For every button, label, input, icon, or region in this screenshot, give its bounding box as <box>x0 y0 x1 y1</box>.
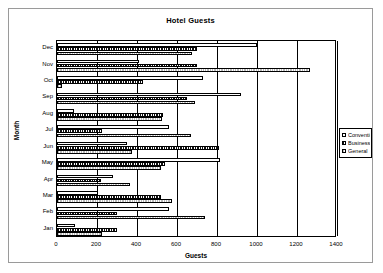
bar-general <box>57 117 162 121</box>
bar-general <box>57 84 62 88</box>
plot-area <box>56 40 336 237</box>
chart-title: Hotel Guests <box>9 16 372 25</box>
y-tick-label: Feb <box>43 208 53 214</box>
x-tick-label: 400 <box>131 241 141 247</box>
bar-group <box>57 41 335 57</box>
bar-group <box>57 90 335 106</box>
y-tick-label: Apr <box>44 176 53 182</box>
bar-business <box>57 228 117 232</box>
bar-business <box>57 80 143 84</box>
bar-general <box>57 52 192 56</box>
y-tick-label: Mar <box>43 192 53 198</box>
bar-convention <box>57 207 169 211</box>
legend-item: Convention <box>342 131 370 139</box>
y-tick-label: May <box>42 159 53 165</box>
y-tick-label: Oct <box>44 77 53 83</box>
legend-label: General <box>348 148 368 154</box>
x-tick-label: 800 <box>211 241 221 247</box>
x-tick-label: 1200 <box>289 241 302 247</box>
x-tick-label: 1400 <box>329 241 342 247</box>
y-tick-label: Aug <box>42 110 53 116</box>
bar-general <box>57 68 310 72</box>
bar-business <box>57 129 102 133</box>
legend-swatch-convention <box>342 133 346 137</box>
bar-business <box>57 195 161 199</box>
bar-group <box>57 107 335 123</box>
legend-swatch-business <box>342 141 346 145</box>
bar-convention <box>57 76 203 80</box>
bar-general <box>57 134 191 138</box>
bar-convention <box>57 224 75 228</box>
legend-item: Business <box>342 139 370 147</box>
legend-label: Convention <box>348 132 370 138</box>
bar-convention <box>57 125 169 129</box>
y-tick-label: Dec <box>42 44 53 50</box>
bar-group <box>57 205 335 221</box>
bar-convention <box>57 109 74 113</box>
legend-item: General <box>342 147 370 155</box>
x-tick-label: 0 <box>54 241 57 247</box>
bar-group <box>57 222 335 238</box>
bar-general <box>57 232 102 236</box>
bar-group <box>57 140 335 156</box>
bar-group <box>57 172 335 188</box>
bar-group <box>57 156 335 172</box>
bar-business <box>57 97 187 101</box>
bar-general <box>57 166 161 170</box>
bar-group <box>57 123 335 139</box>
bar-convention <box>57 175 113 179</box>
chart-frame: Hotel Guests Month JanFebMarAprMayJunJul… <box>8 8 373 263</box>
bar-general <box>57 150 132 154</box>
y-tick-label: Jul <box>45 126 53 132</box>
x-tick-label: 600 <box>171 241 181 247</box>
bar-convention <box>57 158 220 162</box>
x-tick-label: 1000 <box>249 241 262 247</box>
bar-general <box>57 101 195 105</box>
bar-group <box>57 189 335 205</box>
x-tick-label: 200 <box>91 241 101 247</box>
bar-convention <box>57 191 98 195</box>
bar-business <box>57 212 117 216</box>
bar-business <box>57 47 197 51</box>
bar-convention <box>57 60 139 64</box>
bar-group <box>57 57 335 73</box>
legend-label: Business <box>348 140 370 146</box>
gridline <box>337 41 338 236</box>
y-tick-label: Jun <box>43 143 53 149</box>
bar-convention <box>57 93 241 97</box>
x-axis-title: Guests <box>56 252 336 259</box>
bar-general <box>57 199 172 203</box>
bar-convention <box>57 43 257 47</box>
bar-business <box>57 146 219 150</box>
bar-business <box>57 64 197 68</box>
bar-convention <box>57 142 127 146</box>
bar-business <box>57 162 165 166</box>
bar-general <box>57 183 130 187</box>
y-tick-label: Sep <box>42 93 53 99</box>
y-axis-tick-labels: JanFebMarAprMayJunJulAugSepOctNovDec <box>9 40 53 237</box>
bar-general <box>57 216 205 220</box>
chart-legend: ConventionBusinessGeneral <box>339 128 372 158</box>
bar-group <box>57 74 335 90</box>
bar-business <box>57 113 163 117</box>
y-tick-label: Nov <box>42 61 53 67</box>
legend-swatch-general <box>342 149 346 153</box>
bar-business <box>57 179 101 183</box>
y-tick-label: Jan <box>43 225 53 231</box>
